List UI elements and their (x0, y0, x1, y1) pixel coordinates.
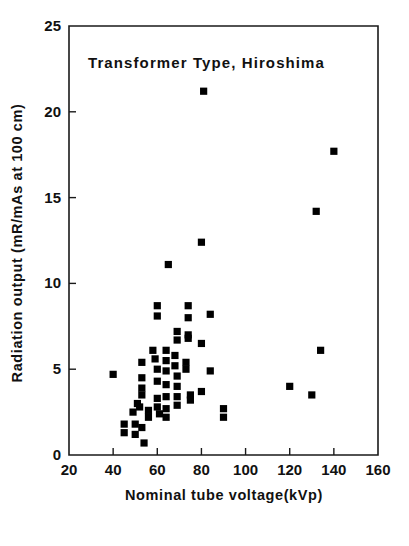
data-point (145, 414, 152, 421)
data-point (174, 383, 181, 390)
data-point (132, 431, 139, 438)
data-point (207, 367, 214, 374)
x-tick-label: 100 (233, 461, 258, 478)
data-point (138, 391, 145, 398)
data-point (145, 407, 152, 414)
data-point (182, 366, 189, 373)
data-point (129, 409, 136, 416)
data-point (308, 391, 315, 398)
data-point (185, 335, 192, 342)
plot-frame (69, 26, 378, 455)
data-point (132, 421, 139, 428)
data-point (163, 393, 170, 400)
y-tick-label: 25 (44, 17, 61, 34)
data-point (220, 414, 227, 421)
data-point (151, 355, 158, 362)
data-point (174, 393, 181, 400)
data-point (154, 378, 161, 385)
data-point (163, 357, 170, 364)
data-point (198, 388, 205, 395)
data-point (154, 366, 161, 373)
data-point (121, 421, 128, 428)
data-point (165, 261, 172, 268)
data-point (138, 359, 145, 366)
x-tick-label: 160 (365, 461, 390, 478)
scatter-plot: 0510152025 20406080100120140160 Transfor… (0, 0, 409, 546)
data-point (154, 312, 161, 319)
data-point (330, 148, 337, 155)
x-axis-title: Nominal tube voltage(kVp) (125, 487, 323, 503)
data-point (163, 367, 170, 374)
chart-title: Transformer Type, Hiroshima (88, 54, 325, 71)
data-point (286, 383, 293, 390)
data-point (174, 328, 181, 335)
x-axis-ticks: 20406080100120140160 (61, 448, 391, 478)
data-markers (110, 88, 338, 447)
x-tick-label: 120 (277, 461, 302, 478)
data-point (121, 429, 128, 436)
y-tick-label: 5 (53, 360, 61, 377)
data-point (313, 208, 320, 215)
data-point (136, 403, 143, 410)
data-point (200, 88, 207, 95)
data-point (154, 403, 161, 410)
data-point (174, 402, 181, 409)
y-tick-label: 15 (44, 189, 61, 206)
y-axis-title: Radiation output (mR/mAs at 100 cm) (9, 104, 25, 383)
figure-container: 0510152025 20406080100120140160 Transfor… (0, 0, 409, 546)
data-point (138, 384, 145, 391)
data-point (198, 340, 205, 347)
data-point (163, 414, 170, 421)
x-tick-label: 80 (193, 461, 210, 478)
data-point (154, 395, 161, 402)
y-tick-label: 10 (44, 274, 61, 291)
data-point (138, 374, 145, 381)
data-point (185, 302, 192, 309)
x-tick-label: 40 (105, 461, 122, 478)
data-point (220, 405, 227, 412)
x-tick-label: 60 (149, 461, 166, 478)
data-point (171, 362, 178, 369)
data-point (198, 239, 205, 246)
data-point (171, 352, 178, 359)
data-point (163, 381, 170, 388)
y-axis-ticks: 0510152025 (44, 17, 76, 463)
x-tick-label: 20 (61, 461, 78, 478)
data-point (163, 405, 170, 412)
data-point (317, 347, 324, 354)
y-tick-label: 20 (44, 103, 61, 120)
data-point (156, 410, 163, 417)
data-point (182, 359, 189, 366)
axes-frame (69, 26, 378, 455)
x-tick-label: 140 (321, 461, 346, 478)
data-point (140, 439, 147, 446)
data-point (187, 396, 194, 403)
data-point (174, 336, 181, 343)
data-point (138, 424, 145, 431)
data-point (154, 302, 161, 309)
data-point (110, 371, 117, 378)
data-point (149, 347, 156, 354)
data-point (163, 347, 170, 354)
data-point (185, 314, 192, 321)
data-point (174, 372, 181, 379)
data-point (207, 311, 214, 318)
